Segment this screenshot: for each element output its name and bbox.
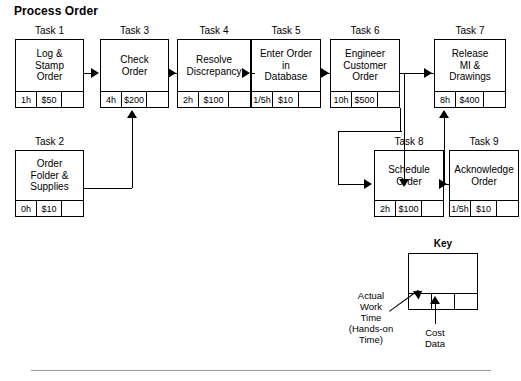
task-metrics-row: 2h $100 [178,91,250,107]
key-cost-caption-line: Data [425,338,445,349]
task-label: Task 8 [374,136,444,148]
task-metrics-row: 0h $10 [16,200,83,216]
key-cost-caption-line: Cost [425,327,445,338]
task-name-line: Folder & [31,170,69,181]
task-blank-cell [147,92,168,107]
arrowhead-task3-to-task4 [168,68,176,78]
task-node-task-8[interactable]: Task 8 Schedule Order 2h $100 [374,150,444,217]
task-name: Enter Order in Database [252,40,320,91]
task-time-cell: 2h [375,201,396,216]
task-box: Acknowledge Order 1/5h $10 [449,150,519,217]
connector-task6-to-task8-rise [338,131,339,184]
task-cost-cell: $100 [396,201,422,216]
task-name-line: Customer [343,60,386,71]
arrowhead-task5-to-task6 [321,68,329,78]
task-name-line: Supplies [30,181,68,192]
process-flow-diagram: Process Order Task 1 Log & Stamp Order 1… [0,0,521,381]
task-node-task-5[interactable]: Task 5 Enter Order in Database 1/5h $10 [251,39,321,108]
connector-task9-to-task7 [444,116,445,184]
task-name-line: Drawings [449,71,491,82]
task-blank-cell [62,92,83,107]
task-cost-cell: $10 [37,201,62,216]
task-blank-cell [422,201,443,216]
connector-task6-to-task8-run [338,131,402,132]
key-cost-leader-line [435,302,436,324]
task-time-cell: 10h [331,92,352,107]
connector-task4-to-task5 [251,73,255,74]
arrowhead-task9-to-task7 [439,110,449,118]
task-box: Log & Stamp Order 1h $50 [15,39,84,108]
task-box: Order Folder & Supplies 0h $10 [15,150,84,217]
task-time-cell: 1/5h [252,92,273,107]
task-metrics-row: 10h $500 [331,91,399,107]
task-box: Engineer Customer Order 10h $500 [330,39,400,108]
task-label: Task 4 [177,25,251,37]
task-box: Check Order 4h $200 [100,39,169,108]
task-metrics-row: 1/5h $10 [252,91,320,107]
key-time-caption-line: Time [361,312,382,323]
task-node-task-6[interactable]: Task 6 Engineer Customer Order 10h $500 [330,39,400,108]
task-name-line: Schedule [388,164,430,175]
task-box: Release MI & Drawings 8h $400 [434,39,506,108]
task-name-line: Order [471,176,497,187]
task-time-cell: 1h [16,92,37,107]
task-box: Resolve Discrepancy 2h $100 [177,39,251,108]
key-time-caption-line: (Hands-on [349,323,393,334]
task-label: Task 9 [449,136,519,148]
connector-task6-to-task8-drop [400,108,401,132]
task-metrics-row: 8h $400 [435,91,505,107]
task-blank-cell [378,92,399,107]
task-cost-cell: $50 [37,92,62,107]
task-node-task-3[interactable]: Task 3 Check Order 4h $200 [100,39,169,108]
task-name: Release MI & Drawings [435,40,505,91]
task-name-line: Acknowledge [454,164,513,175]
task-metrics-row: 1h $50 [16,91,83,107]
task-name: Order Folder & Supplies [16,151,83,200]
task-metrics-row: 1/5h $10 [450,200,518,216]
task-cost-cell: $10 [471,201,497,216]
connector-task2-to-task3-run [84,188,132,189]
task-name-line: Release [452,48,489,59]
task-time-cell: 2h [178,92,199,107]
task-time-cell: 0h [16,201,37,216]
task-cost-cell: $10 [273,92,299,107]
key-cost-leader-arrow [430,296,440,304]
key-blank-cell [455,294,477,309]
task-cost-cell: $200 [122,92,147,107]
task-name-line: Order [352,71,378,82]
task-node-task-2[interactable]: Task 2 Order Folder & Supplies 0h $10 [15,150,84,217]
task-name-line: Order [37,158,63,169]
task-name-line: Resolve [196,54,232,65]
page-title: Process Order [14,4,98,18]
task-name-line: MI & [460,60,481,71]
task-node-task-4[interactable]: Task 4 Resolve Discrepancy 2h $100 [177,39,251,108]
task-name-line: in [282,60,290,71]
key-time-caption-line: Actual [358,290,384,301]
task-node-task-7[interactable]: Task 7 Release MI & Drawings 8h $400 [434,39,506,108]
task-label: Task 7 [434,25,506,37]
task-node-task-1[interactable]: Task 1 Log & Stamp Order 1h $50 [15,39,84,108]
task-box: Enter Order in Database 1/5h $10 [251,39,321,108]
task-metrics-row: 2h $100 [375,200,443,216]
task-name: Check Order [101,40,168,91]
task-metrics-row: 4h $200 [101,91,168,107]
arrowhead-task1-to-task3 [91,68,99,78]
arrowhead-task6-branch-into-task9-feed [399,179,409,187]
task-blank-cell [62,201,83,216]
key-box [408,253,478,310]
task-name-line: Database [265,71,308,82]
arrowhead-task6-to-task7 [424,68,432,78]
task-name: Engineer Customer Order [331,40,399,91]
task-time-cell: 4h [101,92,122,107]
key-title: Key [408,238,478,249]
task-name-line: Order [37,71,63,82]
arrowhead-task4-to-task5 [242,68,250,78]
task-name-line: Check [120,54,148,65]
task-node-task-9[interactable]: Task 9 Acknowledge Order 1/5h $10 [449,150,519,217]
key-time-caption-line: Work [360,301,382,312]
task-label: Task 3 [100,25,169,37]
task-name-line: Log & [36,48,62,59]
task-time-cell: 8h [435,92,456,107]
task-cost-cell: $100 [199,92,229,107]
task-cost-cell: $500 [352,92,378,107]
